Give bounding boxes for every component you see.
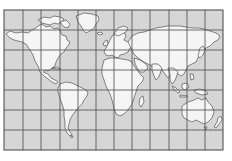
philippines [190,74,194,80]
map-canvas [0,0,232,161]
world-map: World map (Mercator projection) with gra… [0,0,232,161]
